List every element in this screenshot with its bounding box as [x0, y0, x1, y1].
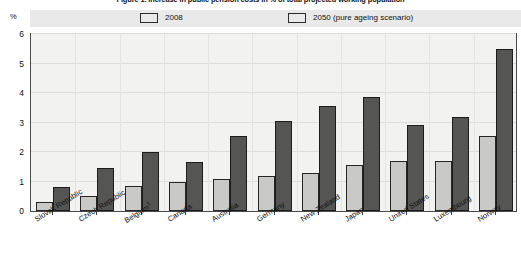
chart-legend: 2008 2050 (pure ageing scenario) — [30, 10, 521, 27]
y-tick-label-4: 4 — [19, 88, 24, 98]
chart-title: Figure 1. Increase in public pension cos… — [0, 0, 521, 6]
y-tick-label-2: 2 — [19, 147, 24, 157]
x-axis-labels: Slovak RepublicCzech RepublicBelgium1Can… — [30, 212, 517, 274]
bar — [435, 161, 452, 211]
gridline-x-7 — [341, 34, 342, 211]
legend-item-2008: 2008 — [140, 13, 183, 23]
bar — [275, 121, 292, 211]
gridline-x-9 — [429, 34, 430, 211]
gridline-x-5 — [252, 34, 253, 211]
bar-group — [479, 49, 513, 211]
plot-area — [30, 33, 517, 212]
y-tick-label-0: 0 — [19, 206, 24, 216]
y-tick-label-3: 3 — [19, 118, 24, 128]
gridline-y-5 — [31, 63, 516, 64]
y-tick-label-1: 1 — [19, 177, 24, 187]
gridline-x-1 — [75, 34, 76, 211]
bar — [479, 136, 496, 211]
bar — [363, 97, 380, 211]
y-axis-unit: % — [10, 12, 17, 21]
gridline-x-10 — [474, 34, 475, 211]
gridline-y-4 — [31, 92, 516, 93]
gridline-x-6 — [297, 34, 298, 211]
legend-label-2050: 2050 (pure ageing scenario) — [313, 13, 413, 23]
legend-label-2008: 2008 — [165, 13, 183, 23]
chart-root: Figure 1. Increase in public pension cos… — [0, 0, 521, 274]
bar-group — [258, 121, 292, 211]
y-tick-label-5: 5 — [19, 59, 24, 69]
bar-group — [346, 97, 380, 211]
gridline-x-3 — [164, 34, 165, 211]
gridline-x-4 — [208, 34, 209, 211]
gridline-y-6 — [31, 33, 516, 34]
bar-group — [213, 136, 247, 211]
y-tick-label-6: 6 — [19, 29, 24, 39]
y-axis-labels: 0123456 — [0, 33, 27, 212]
legend-swatch-2008 — [140, 13, 158, 23]
gridline-x-2 — [120, 34, 121, 211]
legend-item-2050: 2050 (pure ageing scenario) — [288, 13, 413, 23]
gridline-x-8 — [385, 34, 386, 211]
bar — [230, 136, 247, 211]
bar — [496, 49, 513, 211]
legend-swatch-2050 — [288, 13, 306, 23]
